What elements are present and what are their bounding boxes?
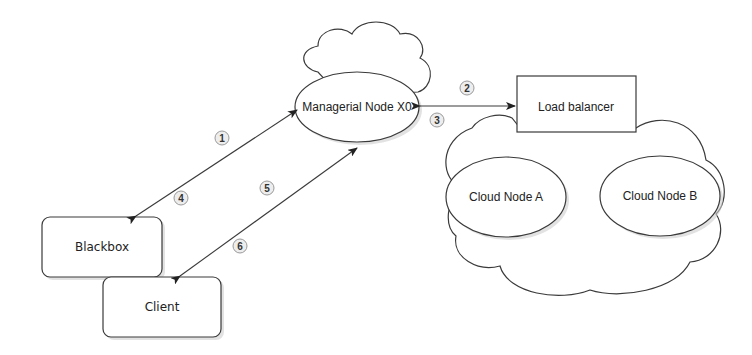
svg-text:1: 1 (219, 133, 225, 144)
managerial-node[interactable]: Managerial Node X0 (295, 72, 422, 145)
load-balancer-label: Load balancer (538, 100, 614, 114)
svg-text:3: 3 (434, 115, 440, 126)
edge-blackbox-managerial (136, 110, 297, 216)
blackbox-label: Blackbox (75, 240, 129, 254)
step-badge-3: 3 (430, 113, 444, 127)
svg-text:6: 6 (237, 241, 243, 252)
step-badge-5: 5 (260, 181, 274, 195)
step-badge-2: 2 (460, 81, 474, 95)
step-badge-4: 4 (174, 191, 188, 205)
blackbox-node[interactable]: Blackbox (42, 217, 165, 280)
cloud-node-b-label: Cloud Node B (623, 189, 698, 203)
cloud-node-a-label: Cloud Node A (469, 190, 543, 204)
step-badge-1: 1 (215, 131, 229, 145)
managerial-node-label: Managerial Node X0 (302, 100, 412, 114)
client-label: Client (145, 300, 180, 314)
client-node[interactable]: Client (103, 277, 224, 340)
svg-text:5: 5 (264, 183, 270, 194)
load-balancer-node[interactable]: Load balancer (517, 76, 636, 132)
step-badge-6: 6 (233, 239, 247, 253)
edge-client-managerial (180, 148, 357, 276)
architecture-diagram: Managerial Node X0 Load balancer Cloud N… (0, 0, 752, 355)
svg-text:2: 2 (464, 83, 470, 94)
svg-text:4: 4 (178, 193, 184, 204)
